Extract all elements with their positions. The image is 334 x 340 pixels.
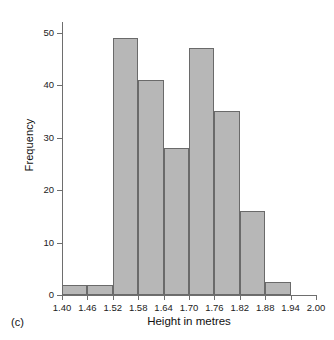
x-tick-label: 1.64 bbox=[154, 302, 173, 313]
y-tick: 50 bbox=[57, 33, 62, 34]
x-tick bbox=[214, 295, 215, 300]
x-tick bbox=[62, 295, 63, 300]
plot-area: 01020304050 1.401.461.521.581.641.701.76… bbox=[62, 22, 316, 295]
y-tick-label: 30 bbox=[43, 132, 54, 143]
y-tick-label: 50 bbox=[43, 27, 54, 38]
x-tick-label: 1.88 bbox=[256, 302, 275, 313]
histogram-bar bbox=[214, 111, 239, 295]
x-tick bbox=[189, 295, 190, 300]
histogram-bar bbox=[138, 80, 163, 295]
x-tick bbox=[316, 295, 317, 300]
y-tick: 20 bbox=[57, 190, 62, 191]
y-axis-title: Frequency bbox=[23, 85, 35, 205]
y-tick: 40 bbox=[57, 85, 62, 86]
x-tick-label: 2.00 bbox=[307, 302, 326, 313]
x-tick bbox=[164, 295, 165, 300]
x-tick bbox=[240, 295, 241, 300]
x-tick-label: 1.82 bbox=[231, 302, 250, 313]
y-tick-label: 20 bbox=[43, 184, 54, 195]
x-tick bbox=[113, 295, 114, 300]
y-tick: 10 bbox=[57, 243, 62, 244]
x-tick-label: 1.40 bbox=[53, 302, 72, 313]
x-tick-label: 1.70 bbox=[180, 302, 199, 313]
histogram-bar bbox=[113, 38, 138, 295]
histogram-bar bbox=[240, 211, 265, 295]
x-tick bbox=[87, 295, 88, 300]
histogram-bar bbox=[87, 285, 112, 296]
x-tick-label: 1.46 bbox=[78, 302, 97, 313]
x-tick-label: 1.94 bbox=[281, 302, 300, 313]
x-tick-label: 1.58 bbox=[129, 302, 148, 313]
y-axis-line bbox=[62, 22, 63, 296]
histogram-bar bbox=[189, 48, 214, 295]
y-tick-label: 10 bbox=[43, 237, 54, 248]
histogram-figure: Frequency 01020304050 1.401.461.521.581.… bbox=[0, 0, 334, 340]
y-tick-label: 40 bbox=[43, 79, 54, 90]
figure-caption: (c) bbox=[11, 316, 24, 328]
histogram-bar bbox=[265, 282, 290, 295]
histogram-bar bbox=[62, 285, 87, 296]
x-tick-label: 1.52 bbox=[104, 302, 123, 313]
x-tick bbox=[138, 295, 139, 300]
x-tick bbox=[291, 295, 292, 300]
histogram-bar bbox=[164, 148, 189, 295]
x-tick bbox=[265, 295, 266, 300]
y-tick-label: 0 bbox=[49, 289, 54, 300]
x-tick-label: 1.76 bbox=[205, 302, 224, 313]
y-tick: 30 bbox=[57, 138, 62, 139]
x-axis-title: Height in metres bbox=[62, 315, 316, 327]
